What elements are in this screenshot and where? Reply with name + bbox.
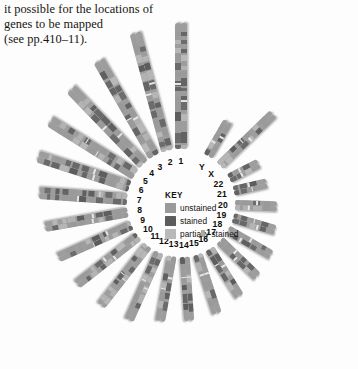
chromosome-band	[70, 190, 78, 196]
chromosome-band	[181, 40, 187, 44]
chromosome-band	[213, 298, 219, 303]
chromosome-band	[125, 102, 132, 109]
chromosome-band	[156, 107, 163, 116]
chromosome-band	[88, 191, 95, 197]
chromosome-band	[116, 193, 121, 199]
chromosome-label-8: 8	[137, 205, 142, 215]
chromosome-band	[62, 189, 69, 195]
chromosome-band	[152, 149, 159, 156]
chromosome-band	[182, 294, 187, 303]
key-row: stained	[165, 216, 257, 227]
chromosome-band	[110, 175, 116, 182]
chromosome-band	[55, 194, 59, 200]
chromosome-band	[181, 55, 187, 61]
key-title: KEY	[165, 191, 257, 200]
chromosome-band	[187, 284, 192, 289]
chromosome-band	[175, 54, 181, 60]
chromosome-band	[181, 88, 187, 91]
centromere	[92, 213, 94, 218]
centromere	[168, 277, 173, 279]
chromosome-band	[181, 32, 187, 36]
chromatid	[175, 23, 181, 149]
chromosome-band	[259, 226, 266, 232]
chromosome-band	[180, 257, 185, 264]
chromosome-band	[142, 158, 148, 164]
key-label: unstained	[180, 203, 216, 213]
chromosome-band	[104, 236, 110, 243]
chromosome-band	[152, 91, 159, 99]
chromosome-label-6: 6	[139, 185, 144, 195]
chromosome-label-Y: Y	[199, 162, 205, 172]
key-label: partially stained	[180, 229, 239, 239]
centromere	[186, 276, 191, 278]
key-label: stained	[180, 216, 207, 226]
chromosome-band	[181, 66, 187, 70]
chromosome-band	[105, 192, 112, 198]
chromosome-band	[106, 198, 112, 204]
chromosome-band	[90, 197, 94, 203]
chromosome-band	[98, 217, 104, 223]
chromosome-band	[125, 186, 129, 192]
chromosome-band	[181, 71, 187, 77]
chromosome-band	[124, 207, 128, 213]
chromosome-band	[123, 193, 128, 199]
chromosome-band	[175, 40, 181, 45]
chromosome-band	[233, 150, 240, 157]
chromosome-band	[164, 293, 170, 299]
chromosome-band	[48, 154, 53, 160]
chromosome-pair-7	[39, 188, 128, 205]
chromosome-pair-14	[180, 257, 195, 322]
chromosome-band	[183, 303, 188, 310]
chromosome-band	[166, 255, 172, 261]
chromosome-band	[45, 188, 51, 194]
chromosome-label-1: 1	[179, 156, 184, 166]
chromosome-band	[175, 63, 181, 70]
chromosome-band	[80, 220, 86, 226]
key-row: unstained	[165, 203, 257, 214]
chromosome-band	[175, 73, 181, 77]
chromosome-band	[175, 32, 181, 36]
chromosome-band	[175, 96, 181, 101]
chromosome-band	[82, 191, 86, 197]
chromosome-band	[82, 172, 88, 178]
chromosome-band	[175, 48, 181, 53]
chromosome-band	[255, 127, 263, 135]
chromosome-label-7: 7	[137, 195, 142, 205]
chromosome-band	[263, 121, 271, 129]
chromosome-band	[128, 225, 134, 231]
centromere	[181, 100, 187, 102]
chromosome-band	[105, 215, 113, 221]
chromosome-band	[182, 284, 187, 290]
chromosome-band	[62, 195, 68, 201]
key-swatch-partially	[165, 229, 176, 240]
chromosome-band	[166, 146, 172, 151]
chromosome-band	[124, 213, 129, 219]
chromosome-pair-1	[175, 23, 187, 149]
chromosome-band	[146, 71, 153, 80]
chromosome-band	[175, 145, 181, 149]
key-row-list: unstainedstainedpartially stained	[165, 203, 257, 240]
chromosome-band	[175, 103, 181, 110]
chromosome-band	[175, 87, 181, 91]
chromosome-band	[55, 189, 60, 195]
chromosome-band	[162, 128, 169, 136]
karyogram-figure: it possible for the locations of genes t…	[0, 0, 358, 369]
chromosome-band	[181, 78, 187, 86]
chromosome-band	[188, 294, 193, 301]
chromosome-label-X: X	[208, 169, 214, 179]
chromosome-band	[52, 219, 57, 225]
chromosome-band	[181, 102, 187, 110]
chromosome-band	[175, 133, 181, 143]
chromosome-band	[181, 132, 187, 143]
chromosome-label-3: 3	[158, 162, 163, 172]
chromosome-band	[65, 160, 71, 167]
chromosome-band	[159, 119, 166, 128]
centromere	[175, 83, 181, 85]
chromosome-band	[166, 283, 172, 292]
centromere	[161, 288, 166, 290]
chromosome-band	[186, 264, 191, 271]
chromosome-band	[244, 168, 252, 175]
chromosome-band	[212, 145, 219, 152]
key-swatch-stained	[165, 216, 176, 227]
chromosome-band	[220, 162, 227, 169]
